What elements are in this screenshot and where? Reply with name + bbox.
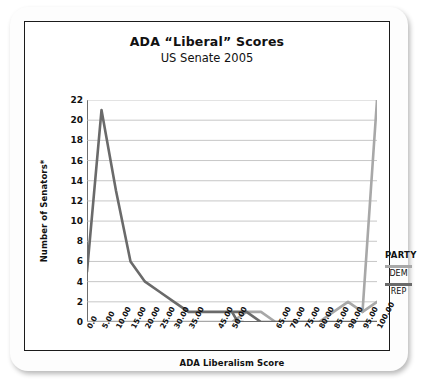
plot-wrap [87, 100, 377, 322]
legend-item-dem: DEM [385, 265, 426, 279]
y-tick-label: 10 [57, 216, 83, 226]
y-axis-title: Number of Senators* [37, 100, 51, 322]
legend-items: DEMREP [385, 265, 426, 297]
y-tick-label: 12 [57, 196, 83, 206]
chart-card: ADA “Liberal” Scores US Senate 2005 Numb… [10, 7, 408, 371]
x-tick-label: 100.00 [375, 300, 397, 330]
legend: PARTY DEMREP [385, 250, 426, 301]
y-tick-label: 6 [57, 256, 83, 266]
legend-label: REP [385, 287, 412, 297]
chart-subtitle: US Senate 2005 [25, 51, 389, 66]
y-tick-label: 20 [57, 115, 83, 125]
y-tick-label: 14 [57, 176, 83, 186]
y-tick-label: 16 [57, 156, 83, 166]
y-axis-tick-labels: 0246810121416182022 [53, 100, 83, 322]
legend-title: PARTY [385, 250, 426, 260]
series-line-rep [87, 110, 377, 322]
legend-label: DEM [385, 269, 412, 279]
legend-swatch-rep [385, 283, 412, 286]
y-tick-label: 22 [57, 95, 83, 105]
chart-title: ADA “Liberal” Scores [25, 34, 389, 49]
legend-item-rep: REP [385, 283, 426, 297]
y-tick-label: 4 [57, 277, 83, 287]
x-axis-title: ADA Liberalism Score [87, 358, 377, 368]
legend-swatch-dem [385, 265, 412, 268]
title-block: ADA “Liberal” Scores US Senate 2005 [25, 34, 389, 66]
y-tick-label: 0 [57, 317, 83, 327]
series-line-dem-tail [363, 100, 378, 312]
chart-frame: ADA “Liberal” Scores US Senate 2005 Numb… [24, 21, 390, 351]
plot-svg [87, 100, 377, 322]
y-tick-label: 2 [57, 297, 83, 307]
y-tick-label: 18 [57, 135, 83, 145]
y-tick-label: 8 [57, 236, 83, 246]
